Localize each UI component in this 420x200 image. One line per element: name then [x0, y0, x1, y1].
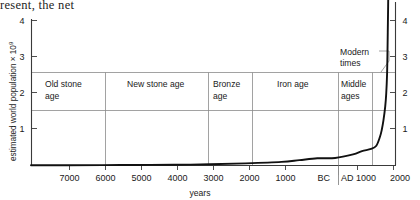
x-axis: 7000 6000 5000 4000 3000 2000 1000 BC AD…	[31, 166, 410, 199]
y-axis-left-label-3: 3	[19, 52, 24, 62]
x-axis-title: years	[189, 188, 210, 198]
chart-plot-area: Old stone age New stone age Bronze age I…	[0, 0, 420, 200]
y-axis-right-label-4: 4	[402, 16, 407, 26]
era-label-bronze-age-line1: Bronze	[213, 79, 240, 89]
x-axis-label-1000bc: 1000	[275, 173, 295, 183]
population-curve	[31, 0, 388, 165]
x-axis-label-2000ad: 2000	[390, 173, 410, 183]
y-axis-right-label-1: 1	[402, 124, 407, 134]
x-axis-label-2000bc: 2000	[239, 173, 259, 183]
y-axis-left: 4 3 2 1	[19, 16, 37, 165]
y-axis-right-label-3: 3	[402, 52, 407, 62]
era-label-bronze-age-line2: age	[213, 91, 228, 101]
era-label-old-stone-age-line1: Old stone	[45, 79, 82, 89]
era-band-labels-group: Old stone age New stone age Bronze age I…	[45, 79, 367, 101]
era-label-middle-ages-line1: Middle	[341, 79, 367, 89]
y-axis-right-label-2: 2	[402, 88, 407, 98]
y-axis-left-label-2: 2	[19, 88, 24, 98]
x-axis-label-ad: AD	[341, 173, 354, 183]
era-label-new-stone-age: New stone age	[127, 79, 185, 89]
era-label-old-stone-age-line2: age	[45, 91, 60, 101]
x-axis-label-bc: BC	[317, 173, 330, 183]
modern-times-annotation: Modern times	[340, 47, 389, 72]
era-label-iron-age: Iron age	[277, 79, 309, 89]
x-axis-label-6000bc: 6000	[95, 173, 115, 183]
y-axis-right: 4 3 2 1	[390, 2, 408, 165]
y-axis-left-label-4: 4	[19, 16, 24, 26]
y-axis-left-label-1: 1	[19, 124, 24, 134]
annotation-modern-times-line2: times	[340, 58, 361, 68]
x-axis-label-4000bc: 4000	[167, 173, 187, 183]
era-label-middle-ages-line2: ages	[341, 91, 360, 101]
x-axis-label-3000bc: 3000	[203, 173, 223, 183]
annotation-modern-times-line1: Modern	[340, 47, 369, 57]
x-axis-label-1000ad: 1000	[356, 173, 376, 183]
x-axis-label-7000bc: 7000	[59, 173, 79, 183]
world-population-figure: resent, the net estimated world populati…	[0, 0, 420, 200]
x-axis-label-5000bc: 5000	[131, 173, 151, 183]
